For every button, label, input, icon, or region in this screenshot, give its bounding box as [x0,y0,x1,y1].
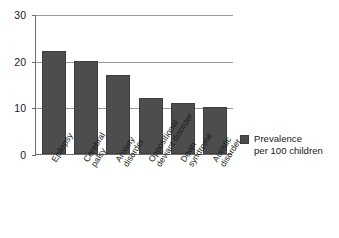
y-axis-label-30: 30 [14,10,26,21]
legend-swatch-icon [240,135,249,144]
bar-slot [137,14,165,154]
x-axis-label-slot: Epilepsy [39,158,67,236]
x-axis-label-slot: Autisticdisorder [200,158,228,236]
legend-label: Prevalenceper 100 children [254,133,323,156]
legend-label-line2: per 100 children [254,145,323,157]
x-axis-labels: EpilepsyCerebralpalsyAnxietydisorderOppo… [35,158,232,236]
y-axis-label-0: 0 [20,150,26,161]
y-tick-0: 0 [32,155,36,156]
legend-label-line1: Prevalence [254,133,323,145]
chart-legend: Prevalenceper 100 children [240,133,323,156]
bar-chart-figure: 30 20 10 0 EpilepsyCerebralpalsyAnxietyd… [0,0,339,238]
x-axis-label-slot: Cerebralpalsy [71,158,99,236]
x-axis-label-slot: Anxietydisorder [103,158,131,236]
bar-slot [104,14,132,154]
x-axis-label-slot: Oppositionaldeviant disorder [136,158,164,236]
y-axis-label-10: 10 [14,103,26,114]
y-axis-label-20: 20 [14,56,26,67]
x-axis-label-slot: Downsyndrome [168,158,196,236]
